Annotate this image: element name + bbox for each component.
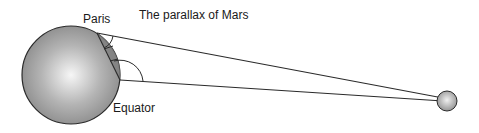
mars-sphere	[437, 91, 457, 111]
diagram-title: The parallax of Mars	[139, 9, 248, 21]
sightline-paris	[97, 33, 443, 98]
sightline-equator	[120, 80, 443, 101]
label-equator: Equator	[113, 102, 155, 114]
label-paris: Paris	[83, 13, 110, 25]
